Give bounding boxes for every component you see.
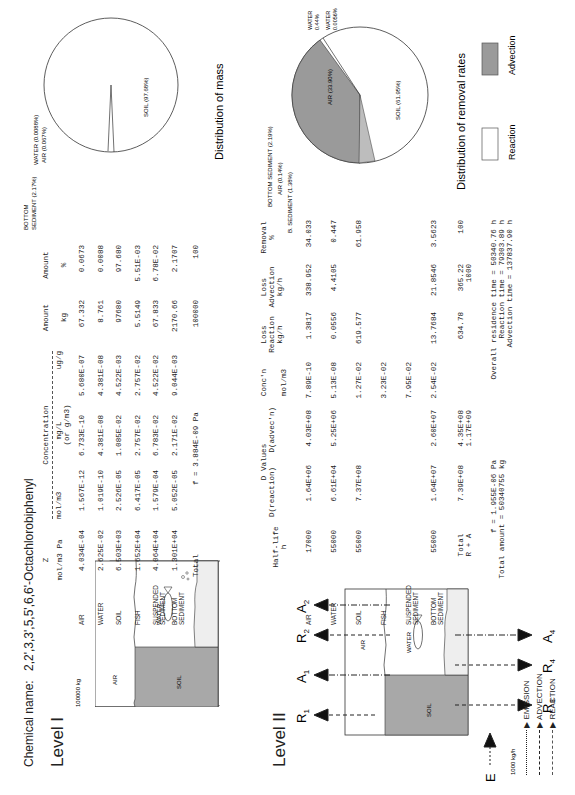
level1-air-label: AIR <box>112 674 118 685</box>
level2-title: Level II <box>270 712 290 767</box>
legend-reaction: ▶ REACTION <box>546 673 559 775</box>
l2-total-dr: 7.39E+08 <box>457 465 465 515</box>
l1-cell-name: SUSPENDEDSEDIMENT <box>152 585 166 625</box>
l1-cell-kg: 5.5149 <box>134 300 142 350</box>
l2-total-label: Total R + A <box>457 520 473 570</box>
l2-cell-name: AIR <box>305 580 312 625</box>
l1-header-amount-pct: Amount % <box>42 240 68 290</box>
l1-cell-molm3: 1.567E-12 <box>78 470 86 525</box>
l2-cell-dr: 6.61E+04 <box>330 465 338 515</box>
l2-summary-left: f = 1.955E-06 Pa Total amount = 50340755… <box>490 460 506 600</box>
legend-advection-swatch <box>482 43 498 75</box>
pie1-soil-label: SOIL (97.68%) <box>143 78 149 117</box>
l2-cell-rem: 34.033 <box>305 220 313 260</box>
pie2-soil-label: SOIL (61.95%) <box>395 81 401 120</box>
l1-total-kg: 100000 <box>192 300 200 345</box>
label-a4: A4 <box>540 629 557 643</box>
chemical-name-line: Chemical name: 2,2',3,3',5,5',6,6'-Octac… <box>22 478 36 767</box>
l1-header-concentration: Concentration mol/m3 mg/L ug/g (or g/m3) <box>42 345 71 525</box>
l2-cell-rem: 3.5623 <box>430 220 438 260</box>
pie2-bottom-label: BOTTOM SEDIMENT (2.19%) <box>267 126 273 207</box>
l1-cell-molm3: 5.052E-05 <box>171 470 179 525</box>
l2-cell-conc: 1.27E-02 <box>355 362 363 407</box>
l2-cell-rem: 0.447 <box>330 220 338 260</box>
l2-cell-name: SUSPENDEDSEDIMENT <box>405 580 419 625</box>
l2-cell-halflife: 17000 <box>305 530 313 575</box>
l2-total-lr: 634.78 <box>457 312 465 357</box>
l1-cell-molm3: 6.417E-05 <box>134 470 142 525</box>
l1-cell-mgL: 6.783E-02 <box>152 415 160 470</box>
l2-cell-halflife: 55000 <box>430 530 438 575</box>
l2-cell-name: FISH <box>380 580 387 625</box>
l2-cell-halflife: 55000 <box>355 530 363 575</box>
l2-cell-dr: 1.64E+06 <box>305 465 313 515</box>
level2-air-label: AIR <box>360 639 366 650</box>
pie1-bottom-label-2: SEDIMENT (2.17%) <box>31 176 37 230</box>
level1-total-label: 100000 kg <box>75 679 81 707</box>
l2-cell-da: 2.60E+07 <box>430 410 438 460</box>
l1-cell-molm3: 1.579E-04 <box>152 470 160 525</box>
l1-header-z: Z mol/m3 Pa <box>42 525 64 595</box>
level2-removal-pie: BOTTOM SEDIMENT (2.19%) AIR (0.14%) B. S… <box>250 0 575 235</box>
l1-cell-name: WATER <box>97 585 104 625</box>
l1-cell-ugg: 2.757E-02 <box>134 355 142 415</box>
label-r4: R4 <box>540 659 557 673</box>
l2-header-dvalues: D Values D(reaction) D(advec'n) <box>260 407 276 517</box>
pie2-water2-label: WATER <box>325 11 331 30</box>
level1-title: Level I <box>48 717 68 767</box>
l1-cell-kg: 8.761 <box>97 300 105 350</box>
l1-cell-mgL: 2.757E-02 <box>134 415 142 470</box>
l1-cell-z: 1.652E+04 <box>134 530 142 585</box>
l1-cell-z: 4.064E+04 <box>152 530 160 585</box>
l2-cell-la: 21.8546 <box>430 264 438 312</box>
legend-reaction-swatch <box>482 128 498 160</box>
l1-cell-ugg: 4.522E-03 <box>115 355 123 415</box>
l1-cell-pct: 97.680 <box>115 245 123 295</box>
l2-cell-da: 5.25E+06 <box>330 410 338 460</box>
l2-cell-la: 4.4105 <box>330 264 338 312</box>
legend-advection-label: Advection <box>507 35 517 75</box>
document-page: Chemical name: 2,2',3,3',5,5',6,6'-Octac… <box>0 0 575 795</box>
pie1-bottom-label: BOTTOM <box>23 204 29 230</box>
pie2-air-small-label: AIR (0.14%) <box>277 162 283 195</box>
chemical-name: 2,2',3,3',5,5',6,6'-Octachlorobiphenyl <box>22 478 36 671</box>
l2-cell-name: SOIL <box>355 580 362 625</box>
pie2-water1-pct: 0.44% <box>314 14 320 30</box>
l2-header-loss-advection: Loss Advection kg/h <box>260 262 284 312</box>
l1-cell-kg: 67.833 <box>152 300 160 350</box>
emission-rate-label: 1000 kg/h <box>510 749 516 775</box>
l2-cell-lr: 619.577 <box>355 312 363 357</box>
level2-soil-label: SOIL <box>426 703 432 717</box>
l1-cell-z: 1.301E+04 <box>171 530 179 585</box>
l1-cell-mgL: 1.085E-02 <box>115 415 123 470</box>
label-r2: R2 <box>294 629 311 643</box>
pie1-caption: Distribution of mass <box>213 63 225 160</box>
l1-cell-name: FISH <box>134 585 141 625</box>
l1-cell-z: 6.503E+03 <box>115 530 123 585</box>
l1-cell-pct: 2.1707 <box>171 245 179 295</box>
l1-cell-molm3: 2.526E-05 <box>115 470 123 525</box>
chemical-name-label: Chemical name: <box>22 680 36 767</box>
l1-cell-name: BOTTOMSEDIMENT <box>171 585 185 625</box>
l2-cell-conc: 7.89E-10 <box>305 362 313 407</box>
l2-cell-halflife: 55000 <box>330 530 338 575</box>
l1-cell-mgL: 6.733E-10 <box>78 415 86 470</box>
l1-total-f: f = 3.884E-09 Pa <box>192 412 200 485</box>
level1-soil-label: SOIL <box>176 675 182 689</box>
l1-cell-kg: 97680 <box>115 300 123 350</box>
l2-cell-dr: 7.37E+08 <box>355 465 363 515</box>
l2-cell-conc: 3.23E-02 <box>380 362 388 407</box>
pie2-water1-label: WATER <box>307 11 313 30</box>
l1-cell-kg: 67.332 <box>78 300 86 350</box>
l1-cell-ugg: 9.044E-03 <box>171 355 179 415</box>
l1-cell-pct: 0.0088 <box>97 245 105 295</box>
l2-header-loss-reaction: Loss Reaction kg/h <box>260 312 284 357</box>
l2-cell-la: 338.952 <box>305 264 313 312</box>
fish-icon <box>414 621 423 649</box>
l1-cell-pct: 0.0673 <box>78 245 86 295</box>
legend-emission: ▶ EMISSION <box>520 673 533 775</box>
pie2-air-big-label: AIR (33.90%) <box>327 69 333 105</box>
l1-cell-z: 2.625E-02 <box>97 530 105 585</box>
l1-cell-z: 4.034E-04 <box>78 530 86 585</box>
l2-cell-dr: 1.64E+07 <box>430 465 438 515</box>
